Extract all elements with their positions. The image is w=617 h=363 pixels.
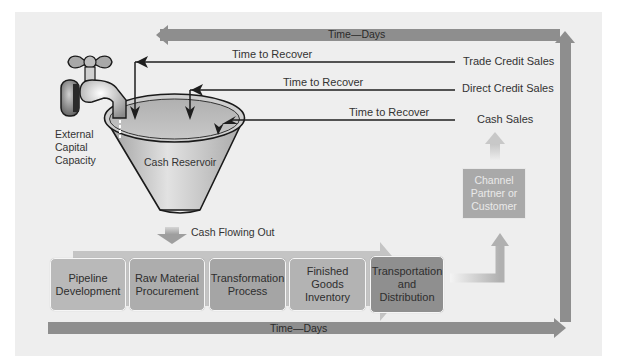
bent-arrow-to-partner xyxy=(450,233,509,278)
stage-label: Transportation and Distribution xyxy=(372,265,443,304)
stage-label: Transformation Process xyxy=(211,272,285,298)
stage-raw-material-procurement: Raw Material Procurement xyxy=(129,258,205,311)
source-cash-sales: Cash Sales xyxy=(477,113,533,125)
source-trade-credit-sales: Trade Credit Sales xyxy=(463,55,554,67)
external-capital-label: External Capital Capacity xyxy=(55,128,96,167)
stage-transformation-process: Transformation Process xyxy=(209,258,286,311)
source-direct-credit-sales: Direct Credit Sales xyxy=(462,82,554,94)
stage-label: Pipeline Development xyxy=(56,272,121,298)
recovery-line-cash-sales xyxy=(214,116,455,135)
recovery-label-trade-credit: Time to Recover xyxy=(232,48,312,60)
recovery-label-cash-sales: Time to Recover xyxy=(349,106,429,118)
stage-label: Raw Material Procurement xyxy=(135,272,199,298)
cash-flowing-out-label: Cash Flowing Out xyxy=(191,226,274,238)
channel-partner-label: Channel Partner or Customer xyxy=(471,174,518,213)
bottom-axis-label: Time—Days xyxy=(270,322,327,334)
recovery-label-direct-credit: Time to Recover xyxy=(283,76,363,88)
cash-reservoir-label: Cash Reservoir xyxy=(144,156,216,168)
channel-partner-box: Channel Partner or Customer xyxy=(462,168,526,219)
top-axis-label: Time—Days xyxy=(328,28,385,40)
stage-finished-goods-inventory: Finished Goods Inventory xyxy=(289,258,366,311)
stage-label: Finished Goods Inventory xyxy=(290,265,365,304)
right-vertical-arrow xyxy=(555,31,575,322)
cash-flowing-out-arrow xyxy=(157,227,187,244)
stage-pipeline-development: Pipeline Development xyxy=(50,258,126,311)
partner-to-cash-sales-arrow xyxy=(485,132,505,161)
stage-transportation-distribution: Transportation and Distribution xyxy=(370,256,444,313)
